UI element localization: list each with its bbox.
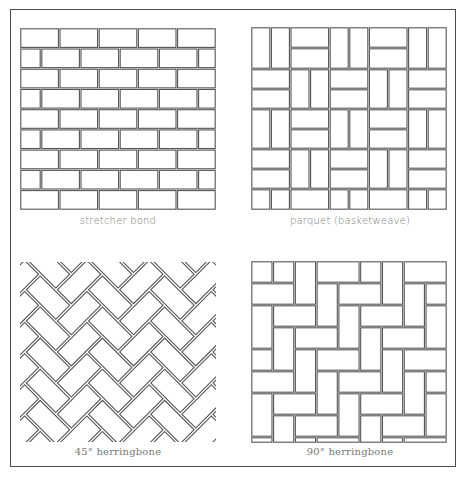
herringbone-45-pattern: [20, 262, 216, 442]
brick: [409, 90, 447, 108]
brick: [271, 110, 289, 148]
brick: [26, 400, 69, 443]
brick: [271, 28, 289, 68]
brick: [291, 70, 309, 108]
brick: [120, 49, 158, 68]
brick: [295, 416, 337, 436]
brick: [138, 150, 176, 169]
brick: [426, 372, 446, 392]
brick: [252, 306, 272, 348]
brick: [311, 150, 329, 188]
brick: [199, 89, 216, 108]
brick: [271, 190, 289, 209]
brick: [99, 29, 137, 48]
brick: [0, 214, 7, 257]
brick: [0, 323, 39, 366]
brick: [462, 338, 467, 381]
brick: [317, 372, 337, 414]
stretcher-bond-pattern: [20, 28, 216, 210]
brick: [382, 262, 402, 304]
brick: [89, 338, 132, 381]
brick: [409, 190, 427, 209]
brick: [330, 170, 368, 188]
brick: [120, 130, 158, 149]
brick: [42, 130, 80, 149]
brick: [311, 70, 329, 108]
brick: [330, 150, 368, 168]
brick: [330, 90, 368, 108]
brick: [0, 400, 7, 443]
brick: [404, 438, 446, 442]
brick: [178, 150, 216, 169]
brick: [21, 89, 40, 108]
brick: [178, 191, 216, 210]
brick: [317, 350, 359, 370]
brick: [21, 69, 59, 88]
brick: [361, 416, 381, 442]
brick: [252, 372, 294, 392]
brick: [199, 130, 216, 149]
brick: [60, 191, 98, 210]
brick: [60, 150, 98, 169]
brick: [462, 307, 467, 350]
brick: [291, 49, 329, 68]
brick: [151, 400, 194, 443]
brick: [428, 110, 446, 148]
brick: [426, 284, 446, 304]
brick: [26, 307, 69, 350]
brick: [0, 354, 39, 397]
brick: [0, 120, 7, 163]
brick: [361, 328, 381, 370]
brick: [151, 307, 194, 350]
brick: [159, 170, 197, 189]
brick: [252, 262, 272, 282]
brick: [57, 291, 100, 334]
brick: [42, 89, 80, 108]
brick: [57, 354, 100, 397]
brick: [138, 110, 176, 129]
brick: [120, 260, 163, 303]
brick: [369, 130, 407, 148]
brick: [426, 394, 446, 436]
brick: [462, 276, 467, 319]
brick: [89, 0, 132, 8]
brick: [369, 28, 407, 47]
brick: [0, 463, 7, 477]
brick: [151, 276, 194, 319]
brick: [178, 69, 216, 88]
brick: [159, 49, 197, 68]
brick: [120, 323, 163, 366]
brick: [99, 110, 137, 129]
brick: [404, 350, 446, 370]
brick: [252, 150, 290, 168]
brick: [81, 89, 119, 108]
brick: [291, 190, 329, 209]
brick: [295, 350, 315, 392]
brick: [252, 170, 290, 188]
brick: [89, 276, 132, 319]
brick: [57, 385, 100, 428]
stretcher-bond-label: stretcher bond: [8, 215, 228, 226]
brick: [382, 416, 424, 436]
parquet-basketweave-pattern: [251, 27, 447, 211]
brick: [57, 323, 100, 366]
brick: [369, 190, 407, 209]
brick: [350, 190, 368, 209]
brick: [339, 306, 359, 348]
brick: [426, 306, 446, 348]
brick: [330, 190, 348, 209]
brick: [382, 350, 402, 392]
brick: [409, 170, 447, 188]
brick: [199, 170, 216, 189]
brick: [21, 29, 59, 48]
brick: [330, 110, 348, 148]
brick: [21, 170, 40, 189]
brick: [21, 130, 40, 149]
brick: [252, 110, 270, 148]
brick: [26, 369, 69, 412]
brick: [339, 372, 381, 392]
brick: [26, 276, 69, 319]
brick: [99, 150, 137, 169]
brick: [252, 28, 270, 68]
brick: [317, 438, 359, 442]
